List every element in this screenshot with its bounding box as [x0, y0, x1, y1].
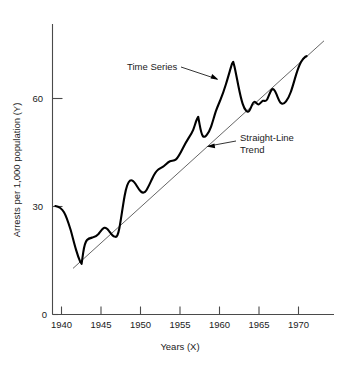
time-series-curve: [55, 56, 306, 264]
y-axis-title: Arrests per 1,000 population (Y): [11, 103, 22, 238]
y-tick-label-60: 60: [32, 93, 43, 104]
x-tick-label-1950: 1950: [130, 319, 151, 330]
annotation-time-series-label: Time Series: [127, 61, 178, 72]
x-tick-label-1965: 1965: [248, 319, 269, 330]
y-axis-title-text: Arrests per 1,000 population (Y): [11, 103, 22, 238]
x-axis-title: Years (X): [160, 341, 199, 352]
x-axis-title-text: Years (X): [160, 341, 199, 352]
x-tick-label-1970: 1970: [288, 319, 309, 330]
axes-group: [53, 24, 335, 315]
chart-figure: 0 30 60 1940 1945 1950 1955 1960 1965 19…: [0, 0, 338, 368]
y-axis-tick-labels: 0 30 60: [32, 93, 47, 320]
x-axis-ticks: [62, 307, 299, 315]
x-tick-label-1955: 1955: [169, 319, 190, 330]
annotation-time-series: Time Series: [127, 61, 219, 80]
x-tick-label-1960: 1960: [209, 319, 230, 330]
y-tick-label-30: 30: [32, 201, 43, 212]
annotation-trend-label-line2: Trend: [240, 144, 264, 155]
y-tick-label-0: 0: [42, 309, 47, 320]
x-axis-tick-labels: 1940 1945 1950 1955 1960 1965 1970: [51, 319, 309, 330]
arrests-time-series-chart: 0 30 60 1940 1945 1950 1955 1960 1965 19…: [0, 0, 338, 368]
x-tick-label-1940: 1940: [51, 319, 72, 330]
x-tick-label-1945: 1945: [90, 319, 111, 330]
annotation-time-series-arrowhead: [211, 74, 219, 80]
time-series-curve-group: [55, 56, 306, 264]
annotation-trend-label-line1: Straight-Line: [240, 132, 294, 143]
